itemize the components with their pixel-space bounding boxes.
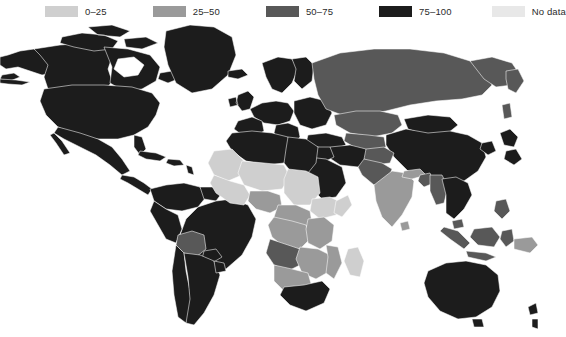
legend-item-0-25[interactable]: 0–25 (45, 6, 107, 17)
legend-item-25-50[interactable]: 25–50 (153, 6, 220, 17)
world-map-svg (0, 23, 538, 337)
region-sri-lanka (400, 221, 410, 231)
legend-swatch-75-100 (379, 6, 412, 17)
legend-swatch-no-data (492, 6, 525, 17)
legend-label-75-100: 75–100 (419, 6, 452, 17)
legend-label-0-25: 0–25 (85, 6, 107, 17)
legend-label-25-50: 25–50 (193, 6, 220, 17)
legend-item-50-75[interactable]: 50–75 (266, 6, 333, 17)
choropleth-legend: 0–25 25–50 50–75 75–100 No data (0, 0, 538, 23)
legend-item-75-100[interactable]: 75–100 (379, 6, 452, 17)
legend-label-no-data: No data (532, 6, 566, 17)
world-choropleth-map (0, 23, 538, 337)
legend-swatch-25-50 (153, 6, 186, 17)
legend-item-no-data[interactable]: No data (492, 6, 566, 17)
legend-label-50-75: 50–75 (306, 6, 333, 17)
region-sakhalin (502, 103, 512, 119)
legend-swatch-50-75 (266, 6, 299, 17)
region-tasmania (472, 319, 484, 327)
region-malaysia (452, 219, 464, 229)
legend-swatch-0-25 (45, 6, 78, 17)
